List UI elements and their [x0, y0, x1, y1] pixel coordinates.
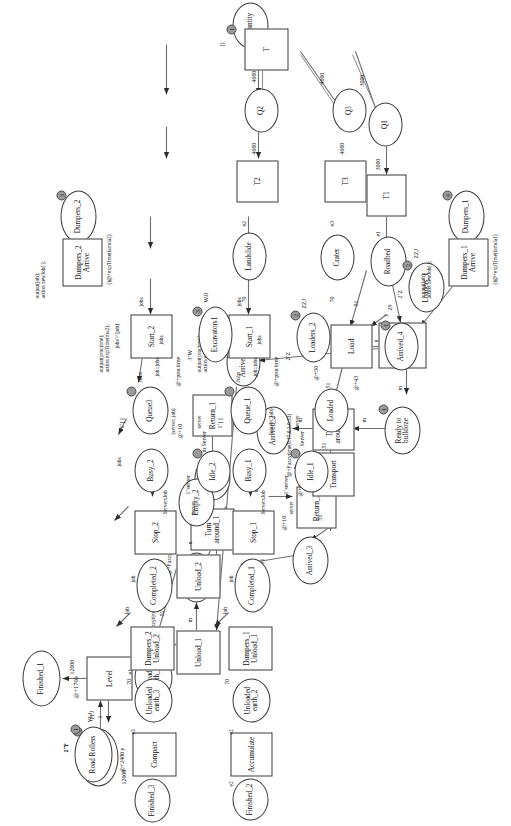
transition-dumpers-unload-1[interactable]: Dumpers_1 Unload_1 [228, 626, 272, 670]
place-arrived-3[interactable]: Arrived_3 [292, 536, 328, 584]
marking-quantity: () [218, 42, 224, 46]
arc-T-Q3: 4000 [318, 72, 324, 84]
colorset-idle-1: Server [298, 431, 304, 446]
arc-q3-job-a: job [130, 575, 136, 582]
transition-T2[interactable]: T2 [236, 160, 278, 202]
token-idle-2 [192, 448, 202, 458]
transition-level[interactable]: Level [86, 656, 132, 700]
arc-Q1-T1: 3000 [374, 158, 380, 170]
place-Q1[interactable]: Q1 [368, 102, 402, 146]
arc-q1-unload70: 70 [224, 679, 230, 684]
marking-queue-3: 1`[ ] [118, 418, 124, 428]
arc-T-Q1: 3000 [358, 74, 364, 86]
arc-compact-fin3: 12000 [120, 769, 126, 784]
marking-loaders-2: 2`Z [284, 351, 290, 360]
place-road-rollers[interactable]: Road Rollers [74, 726, 112, 782]
transition-unload-1[interactable]: Unload_1 [176, 630, 220, 674]
arc-T2-landslide: e2 [240, 220, 246, 226]
transition-T3[interactable]: T3 [324, 160, 366, 202]
place-busy-1[interactable]: Busy_1 [232, 448, 266, 492]
place-arrived-4[interactable]: Arrived_4 [384, 322, 418, 370]
token-dumpers-1: 4 [442, 190, 452, 200]
place-crater[interactable]: Crater [320, 234, 354, 280]
token-arrived-4: 1 [380, 320, 390, 330]
arc-q3-server-b: server [196, 415, 202, 428]
arc-bulldozers-level: 1 [96, 715, 102, 718]
place-completed-1[interactable]: Completed_1 [234, 558, 270, 612]
arc-q3-jobs-c: jobs [138, 297, 144, 306]
transition-T1[interactable]: T1 [366, 174, 406, 216]
colorset-queue-3: Jobs [136, 372, 142, 382]
token-ready-to-bulldoze: 1 [378, 404, 388, 414]
time-start-1: @+proctime [272, 356, 278, 386]
arc-T-Q2: 4000 [250, 70, 256, 82]
place-finished-2[interactable]: Finished_2 [232, 778, 268, 820]
transition-dumpers-arrive-2[interactable]: Dumpers_2 Arrive [62, 238, 102, 286]
arc-q1-server-a: server [288, 501, 294, 514]
arc-load-loaded: 51 [324, 382, 330, 388]
place-loaded[interactable]: Loaded [314, 388, 348, 432]
place-excavators1[interactable]: Excavators1 [198, 306, 232, 362]
transition-accumulate[interactable]: Accumulate [230, 732, 272, 776]
place-unloaded-earth-3[interactable]: Unloaded earth_3 [134, 678, 172, 722]
transition-dumpers-unload-2[interactable]: Dumpers_2 Unload_2 [130, 626, 174, 670]
arc-T3-crater: e3 [328, 220, 334, 226]
arc-readybulldoze-turn2: m [360, 417, 366, 422]
arc-crater-start2: 70 [328, 296, 334, 302]
transition-unload-2[interactable]: Unload_2 [176, 554, 220, 598]
arc-q1-serverjob-a: (server, job) [268, 408, 274, 434]
place-ready-to-bulldoze[interactable]: Ready to bulldoze [384, 406, 420, 454]
place-queue-1[interactable]: Queue_1 [230, 386, 266, 434]
place-loaders-2[interactable]: Loaders_2 [296, 312, 330, 362]
arc-T1-roadbed: e1 [374, 230, 380, 236]
place-unloaded-earth-2[interactable]: Unloaded earth_2 [232, 678, 270, 722]
arc-q3-serverxjob: ServerxJob [162, 490, 168, 514]
transition-start-1[interactable]: Start_1 [228, 314, 270, 358]
place-finished-3[interactable]: Finished_3 [134, 778, 170, 822]
time-return-1: @+10 [176, 423, 182, 438]
token-quantity: 1 [226, 24, 236, 34]
arc-q3-job-b: Job [124, 607, 130, 615]
place-queue-3[interactable]: Queue3 [132, 386, 168, 434]
screenshot-page: Bulldozers1 2 2`T TTJ Level @+1700 12000… [0, 0, 511, 826]
arc-q1-job-b: Job [222, 607, 228, 615]
place-busy-2[interactable]: Busy_2 [134, 448, 168, 492]
arc-acc-fin2: e2 [228, 781, 234, 786]
arc-q1-jobjobs: job::jobs [252, 357, 258, 376]
marking-excavators1: 3`W [186, 350, 192, 360]
transition-start-2[interactable]: Start_2 [130, 314, 172, 358]
arc-load-arrived4: n [372, 339, 378, 342]
arc-q3-serverjob-a: (server, job) [170, 408, 176, 434]
marking-idle-1: 1`server [282, 475, 288, 494]
place-finished1[interactable]: Finished_1 [22, 650, 60, 706]
transition-T[interactable]: T [244, 28, 288, 70]
marking-idle-2: 1`server [184, 475, 190, 494]
place-landslide[interactable]: Landslide [232, 232, 266, 280]
arc-q3-server-a: server [190, 501, 196, 514]
arc-Q3-T3: 4000 [338, 142, 344, 154]
time-return-2: @+10 [280, 515, 286, 530]
arc-roadbed-load: 51 [352, 300, 358, 306]
place-roadbed[interactable]: Roadbed [370, 236, 406, 286]
arc-level-finished1: 12000 [68, 659, 74, 674]
arc-Q2-T2: 4000 [250, 142, 256, 154]
arc-roller-compact: y [118, 747, 124, 750]
place-completed-2[interactable]: Completed_2 [136, 558, 172, 612]
arc-load-loaders: 2`Z [396, 289, 402, 298]
transition-dumpers-arrive-1[interactable]: Dumpers_1 Arrive [448, 238, 488, 286]
place-Q2[interactable]: Q2 [244, 88, 278, 132]
code-dumpers-arrive-1: output(job); action newJob( ); [420, 261, 431, 298]
time-dumpers-arrive-1: ()@+expTime(lamda1) [492, 234, 498, 284]
arc-loaders-load: z [382, 313, 388, 316]
place-Q3[interactable]: Q3 [332, 88, 366, 132]
transition-load[interactable]: Load [330, 324, 372, 368]
colorset-idle-2: Server [200, 431, 206, 446]
transition-compact[interactable]: Compact [132, 732, 176, 776]
transition-stop-1[interactable]: Stop_1 [232, 510, 274, 554]
arc-q1-serverxjob: ServerxJob [260, 490, 266, 514]
colorset-excavators1: WJJ [202, 292, 208, 302]
transition-stop-2[interactable]: Stop_2 [134, 510, 176, 554]
token-queue-3 [126, 386, 136, 396]
colorset-loaders-1: ZZJ [412, 249, 418, 259]
place-dumpers-1[interactable]: Dumpers_1 [448, 190, 484, 242]
